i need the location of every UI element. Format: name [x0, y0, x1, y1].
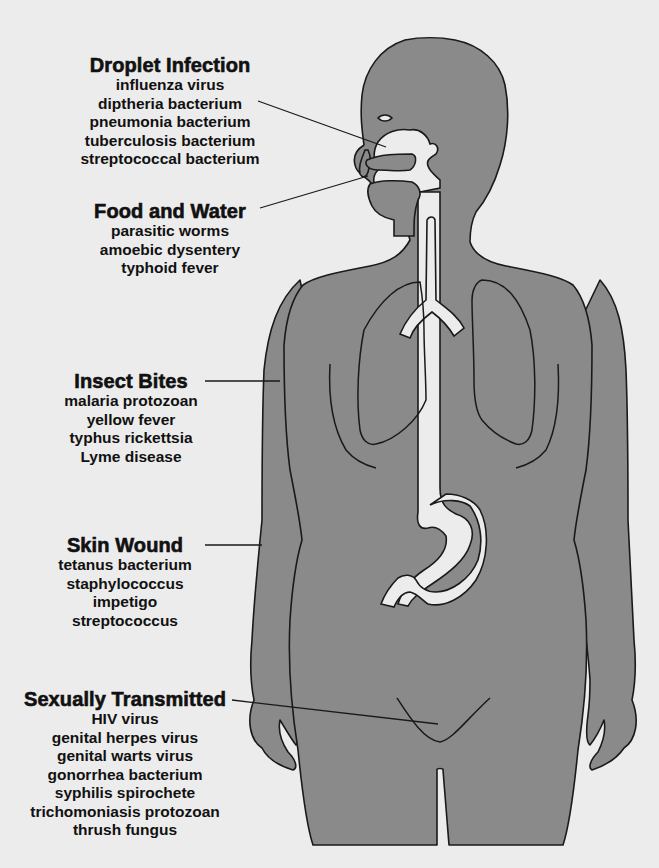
label-item: diptheria bacterium	[70, 95, 270, 114]
label-title: Droplet Infection	[70, 54, 270, 76]
label-title: Sexually Transmitted	[20, 688, 230, 710]
label-item: amoebic dysentery	[80, 241, 260, 260]
label-item: gonorrhea bacterium	[20, 766, 230, 785]
label-item: staphylococcus	[40, 575, 210, 594]
label-sexually-transmitted: Sexually Transmitted HIV virus genital h…	[20, 688, 230, 840]
label-item: genital herpes virus	[20, 729, 230, 748]
eye-notch	[378, 115, 392, 121]
label-title: Insect Bites	[60, 370, 202, 392]
leader-food	[260, 176, 368, 208]
label-item: tetanus bacterium	[40, 556, 210, 575]
label-droplet-infection: Droplet Infection influenza virus dipthe…	[70, 54, 270, 169]
label-item: malaria protozoan	[60, 392, 202, 411]
label-item: impetigo streptococcus	[40, 593, 210, 630]
label-item: typhoid fever	[80, 259, 260, 278]
label-item: genital warts virus	[20, 747, 230, 766]
label-item: HIV virus	[20, 710, 230, 729]
label-item: yellow fever	[60, 411, 202, 430]
label-item: streptococcal bacterium	[70, 150, 270, 169]
label-item: Lyme disease	[60, 448, 202, 467]
label-item: tuberculosis bacterium	[70, 132, 270, 151]
label-title: Skin Wound	[40, 534, 210, 556]
tongue	[368, 181, 420, 236]
label-skin-wound: Skin Wound tetanus bacterium staphylococ…	[40, 534, 210, 630]
label-item: trichomoniasis protozoan	[20, 803, 230, 822]
label-item: pneumonia bacterium	[70, 113, 270, 132]
label-item: influenza virus	[70, 76, 270, 95]
label-item: thrush fungus	[20, 821, 230, 840]
label-insect-bites: Insect Bites malaria protozoan yellow fe…	[60, 370, 202, 466]
label-item: parasitic worms	[80, 222, 260, 241]
label-title: Food and Water	[80, 200, 260, 222]
label-item: syphilis spirochete	[20, 784, 230, 803]
label-food-and-water: Food and Water parasitic worms amoebic d…	[80, 200, 260, 278]
label-item: typhus rickettsia	[60, 429, 202, 448]
